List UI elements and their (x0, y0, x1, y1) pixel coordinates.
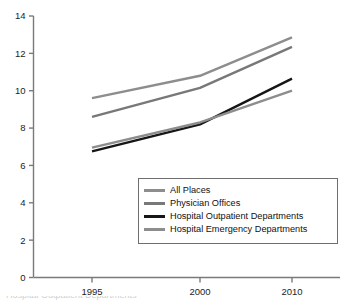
x-axis-tick-labels: 199520002010 (81, 286, 302, 297)
x-tick-label: 2010 (281, 286, 302, 297)
chart-legend: All Places Physician Offices Hospital Ou… (138, 178, 338, 244)
y-axis-tick-labels: 02468101214 (15, 10, 26, 283)
chart-canvas: 02468101214 199520002010 (0, 0, 346, 308)
legend-swatch-all-places (144, 189, 165, 192)
legend-label-hospital-emergency: Hospital Emergency Departments (170, 224, 307, 235)
legend-swatch-hospital-emergency (144, 228, 165, 231)
series-line (92, 47, 292, 117)
x-axis-tick-marks (92, 278, 292, 283)
legend-item: Physician Offices (144, 197, 337, 210)
x-axis: 199520002010 (34, 278, 341, 297)
legend-label-all-places: All Places (170, 185, 210, 196)
y-tick-label: 4 (20, 197, 25, 208)
y-axis: 02468101214 (15, 10, 34, 283)
legend-item: All Places (144, 184, 337, 197)
line-chart: 02468101214 199520002010 All Places Phys… (0, 0, 346, 308)
legend-label-hospital-outpatient: Hospital Outpatient Departments (170, 211, 303, 222)
y-tick-label: 8 (20, 122, 25, 133)
x-tick-label: 2000 (189, 286, 210, 297)
y-tick-label: 6 (20, 160, 25, 171)
legend-swatch-physician-offices (144, 202, 165, 205)
legend-swatch-hospital-outpatient (144, 215, 165, 218)
y-tick-label: 12 (15, 48, 26, 59)
series-line (92, 91, 292, 148)
y-tick-label: 0 (20, 272, 25, 283)
y-tick-label: 10 (15, 85, 26, 96)
data-series-group (92, 37, 292, 151)
legend-label-physician-offices: Physician Offices (170, 198, 240, 209)
clipped-caption-text: Hospital Outpatient Departments (6, 296, 137, 300)
y-tick-label: 14 (15, 10, 26, 21)
legend-item: Hospital Outpatient Departments (144, 210, 337, 223)
y-tick-label: 2 (20, 235, 25, 246)
legend-item-list: All Places Physician Offices Hospital Ou… (139, 179, 337, 236)
legend-item: Hospital Emergency Departments (144, 223, 337, 236)
clipped-caption-strip: Hospital Outpatient Departments (0, 296, 346, 308)
x-tick-label: 1995 (81, 286, 102, 297)
